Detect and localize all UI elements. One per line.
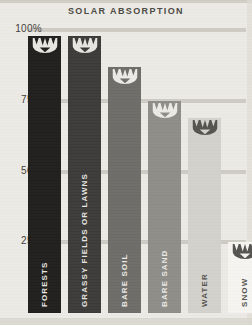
sun-absorption-icon — [72, 38, 97, 53]
sun-absorption-icon — [152, 103, 177, 118]
sun-absorption-icon — [32, 38, 57, 53]
sun-absorption-icon — [192, 120, 217, 135]
bar-bare-soil[interactable]: BARE SOIL — [108, 67, 141, 313]
bar-water[interactable]: WATER — [188, 118, 221, 313]
bar-forests[interactable]: FORESTS — [28, 36, 61, 313]
plot-area: 100%75%50%25% FORESTSGRASSY FIELDS OR LA… — [0, 0, 252, 325]
bar-snow[interactable]: SNOW — [228, 242, 252, 313]
y-tick-label-100: 100% — [2, 23, 42, 34]
sun-absorption-icon — [112, 69, 137, 84]
gridline-100 — [28, 28, 246, 32]
solar-absorption-chart: SOLAR ABSORPTION 100%75%50%25% FORESTSGR… — [0, 0, 252, 325]
bar-bare-sand[interactable]: BARE SAND — [148, 101, 181, 313]
bar-grassy-fields-or-lawns[interactable]: GRASSY FIELDS OR LAWNS — [68, 36, 101, 313]
sun-absorption-icon — [232, 244, 252, 259]
